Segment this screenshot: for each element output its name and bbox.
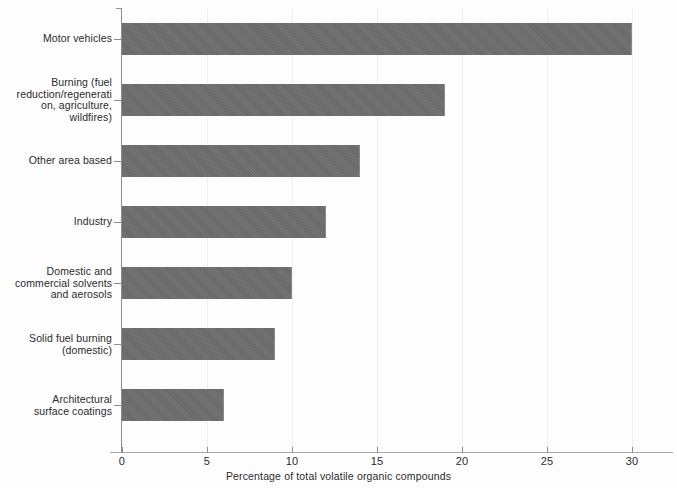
category-label-6: Architecturalsurface coatings	[6, 394, 112, 417]
category-label-line: Solid fuel burning	[6, 333, 112, 345]
category-label-0: Motor vehicles	[6, 33, 112, 45]
gridline-30	[632, 8, 633, 452]
y-tick-mark-1	[114, 100, 122, 101]
bar-5	[122, 328, 275, 360]
x-tick-mark-20	[462, 447, 463, 453]
y-tick-mark-4	[114, 283, 122, 284]
category-label-line: and aerosols	[6, 289, 112, 301]
category-label-line: Domestic and	[6, 266, 112, 278]
x-tick-mark-0	[122, 447, 123, 453]
category-label-3: Industry	[6, 216, 112, 228]
y-tick-mark-0	[114, 39, 122, 40]
x-tick-label-20: 20	[442, 455, 482, 467]
category-label-line: Burning (fuel	[6, 77, 112, 89]
x-axis-line	[110, 452, 673, 453]
x-tick-label-25: 25	[527, 455, 567, 467]
bar-1	[122, 84, 445, 116]
x-tick-label-5: 5	[187, 455, 227, 467]
x-tick-label-30: 30	[612, 455, 652, 467]
x-tick-mark-5	[207, 447, 208, 453]
gridline-15	[377, 8, 378, 452]
category-label-line: wildfires)	[6, 112, 112, 124]
y-tick-mark-3	[114, 222, 122, 223]
category-label-4: Domestic andcommercial solventsand aeros…	[6, 266, 112, 301]
x-tick-mark-15	[377, 447, 378, 453]
bar-6	[122, 389, 224, 421]
y-axis-top-cap	[116, 8, 122, 9]
y-tick-mark-2	[114, 161, 122, 162]
category-label-line: Architectural	[6, 394, 112, 406]
y-tick-mark-5	[114, 344, 122, 345]
x-axis-title: Percentage of total volatile organic com…	[0, 470, 677, 482]
voc-bar-chart-figure: Motor vehiclesBurning (fuelreduction/reg…	[0, 0, 677, 488]
category-label-line: on, agriculture,	[6, 100, 112, 112]
category-label-1: Burning (fuelreduction/regeneration, agr…	[6, 77, 112, 123]
bar-3	[122, 206, 326, 238]
gridline-25	[547, 8, 548, 452]
bar-4	[122, 267, 292, 299]
x-tick-label-0: 0	[102, 455, 142, 467]
category-label-line: surface coatings	[6, 406, 112, 418]
x-tick-label-15: 15	[357, 455, 397, 467]
category-label-5: Solid fuel burning(domestic)	[6, 333, 112, 356]
x-tick-label-10: 10	[272, 455, 312, 467]
category-label-line: (domestic)	[6, 345, 112, 357]
x-tick-mark-25	[547, 447, 548, 453]
x-tick-mark-30	[632, 447, 633, 453]
category-label-line: Industry	[6, 216, 112, 228]
category-label-2: Other area based	[6, 155, 112, 167]
y-tick-mark-6	[114, 405, 122, 406]
gridline-20	[462, 8, 463, 452]
x-tick-mark-10	[292, 447, 293, 453]
bar-0	[122, 23, 632, 55]
category-label-line: Other area based	[6, 155, 112, 167]
bar-2	[122, 145, 360, 177]
category-label-line: Motor vehicles	[6, 33, 112, 45]
y-axis-category-labels: Motor vehiclesBurning (fuelreduction/reg…	[0, 0, 112, 488]
